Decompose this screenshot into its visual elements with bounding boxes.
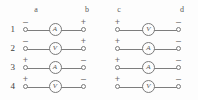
row-label-3: 3: [3, 63, 15, 72]
terminal-right[interactable]: [176, 65, 181, 70]
terminal-right[interactable]: [81, 84, 86, 89]
polarity-sign-right: +: [79, 37, 88, 46]
circuit-cell-a1-b1: – + A: [23, 21, 86, 39]
column-label-b: b: [81, 6, 93, 14]
column-label-a: a: [30, 6, 42, 14]
meter-letter: V: [146, 26, 150, 33]
polarity-sign-left: +: [21, 75, 30, 84]
terminal-right[interactable]: [81, 27, 86, 32]
meter-symbol: V: [142, 23, 155, 36]
polarity-sign-right: –: [174, 56, 183, 65]
polarity-sign-right: –: [174, 37, 183, 46]
terminal-right[interactable]: [81, 46, 86, 51]
circuit-cell-a2-b2: – + V: [23, 40, 86, 58]
polarity-sign-right: –: [79, 56, 88, 65]
polarity-sign-right: –: [174, 75, 183, 84]
column-label-d: d: [176, 6, 188, 14]
meter-symbol: A: [49, 23, 62, 36]
meter-letter: A: [53, 26, 57, 33]
circuit-cell-a4-b4: + – V: [23, 78, 86, 96]
meter-symbol: A: [142, 61, 155, 74]
terminal-left[interactable]: [115, 65, 120, 70]
terminal-left[interactable]: [23, 27, 28, 32]
terminal-right[interactable]: [176, 27, 181, 32]
row-label-4: 4: [3, 82, 15, 91]
circuit-cell-c1-d1: + – V: [115, 21, 181, 39]
polarity-sign-right: –: [174, 18, 183, 27]
polarity-sign-left: +: [21, 56, 30, 65]
terminal-right[interactable]: [176, 84, 181, 89]
terminal-left[interactable]: [23, 84, 28, 89]
meter-letter: A: [146, 64, 150, 71]
polarity-sign-left: –: [21, 18, 30, 27]
polarity-sign-left: –: [21, 37, 30, 46]
row-label-2: 2: [3, 44, 15, 53]
circuit-cell-a3-b3: + – A: [23, 59, 86, 77]
polarity-sign-left: +: [113, 37, 122, 46]
terminal-left[interactable]: [23, 46, 28, 51]
meter-letter: V: [146, 83, 150, 90]
polarity-sign-left: +: [113, 18, 122, 27]
meter-letter: V: [53, 45, 57, 52]
meter-symbol: V: [49, 42, 62, 55]
polarity-sign-right: +: [79, 18, 88, 27]
row-label-1: 1: [3, 25, 15, 34]
terminal-right[interactable]: [81, 65, 86, 70]
terminal-left[interactable]: [115, 84, 120, 89]
meter-letter: A: [146, 45, 150, 52]
circuit-cell-c2-d2: + – A: [115, 40, 181, 58]
meter-letter: A: [53, 64, 57, 71]
meter-symbol: V: [142, 80, 155, 93]
meter-symbol: A: [49, 61, 62, 74]
terminal-left[interactable]: [23, 65, 28, 70]
terminal-right[interactable]: [176, 46, 181, 51]
polarity-sign-right: –: [79, 75, 88, 84]
polarity-sign-left: +: [113, 56, 122, 65]
meter-symbol: A: [142, 42, 155, 55]
meter-symbol: V: [49, 80, 62, 93]
polarity-sign-left: +: [113, 75, 122, 84]
terminal-left[interactable]: [115, 27, 120, 32]
meter-letter: V: [53, 83, 57, 90]
column-label-c: c: [113, 6, 125, 14]
circuit-cell-c3-d3: + – A: [115, 59, 181, 77]
meter-polarity-figure: a b c d 1 2 3 4 – + A – + V + – A: [0, 0, 198, 100]
circuit-cell-c4-d4: + – V: [115, 78, 181, 96]
terminal-left[interactable]: [115, 46, 120, 51]
